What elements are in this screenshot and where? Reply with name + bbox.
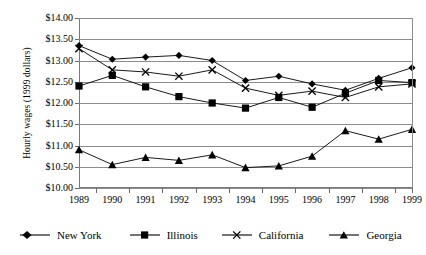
x-tick-mark [96, 188, 97, 193]
y-tick-mark [75, 39, 79, 40]
y-tick-mark [75, 124, 79, 125]
legend-label: Illinois [167, 229, 198, 241]
gridline [79, 167, 412, 168]
y-tick-label: $13.50 [3, 34, 73, 44]
y-tick-mark [75, 61, 79, 62]
y-tick-mark [75, 146, 79, 147]
y-tick-label: $11.50 [3, 119, 73, 129]
x-tick-mark [129, 188, 130, 193]
x-tick-label: 1999 [389, 194, 426, 205]
chart-legend: New York Illinois California [18, 224, 410, 246]
legend-item-illinois: Illinois [128, 229, 198, 241]
diamond-marker-icon [18, 229, 52, 241]
x-tick-mark [329, 188, 330, 193]
gridline [79, 124, 412, 125]
legend-label: Georgia [366, 229, 401, 241]
gridline [79, 18, 412, 19]
y-tick-mark [75, 18, 79, 19]
legend-item-new-york: New York [18, 229, 102, 241]
x-tick-mark [395, 188, 396, 193]
legend-item-california: California [220, 229, 304, 241]
legend-label: New York [57, 229, 102, 241]
x-tick-mark [362, 188, 363, 193]
y-tick-label: $12.00 [3, 98, 73, 108]
y-tick-mark [75, 167, 79, 168]
y-tick-label: $12.50 [3, 77, 73, 87]
y-tick-label: $10.50 [3, 162, 73, 172]
x-tick-mark [229, 188, 230, 193]
x-tick-mark [295, 188, 296, 193]
gridline [79, 146, 412, 147]
gridline [79, 103, 412, 104]
x-tick-mark [262, 188, 263, 193]
plot-right-border [412, 18, 413, 188]
y-tick-mark [75, 82, 79, 83]
gridline [79, 61, 412, 62]
y-tick-mark [75, 188, 79, 189]
y-tick-label: $11.00 [3, 141, 73, 151]
x-tick-mark [196, 188, 197, 193]
y-tick-label: $13.00 [3, 56, 73, 66]
x-tick-mark [412, 188, 413, 193]
y-tick-mark [75, 103, 79, 104]
cross-marker-icon [220, 229, 254, 241]
wage-trend-line-chart: Hourly wages (1999 dollars) $10.00$10.50… [0, 0, 426, 255]
y-tick-label: $14.00 [3, 13, 73, 23]
legend-label: California [259, 229, 304, 241]
gridline [79, 82, 412, 83]
legend-item-georgia: Georgia [327, 229, 401, 241]
square-marker-icon [128, 229, 162, 241]
x-tick-mark [162, 188, 163, 193]
y-tick-label: $10.00 [3, 183, 73, 193]
gridline [79, 39, 412, 40]
triangle-marker-icon [327, 229, 361, 241]
